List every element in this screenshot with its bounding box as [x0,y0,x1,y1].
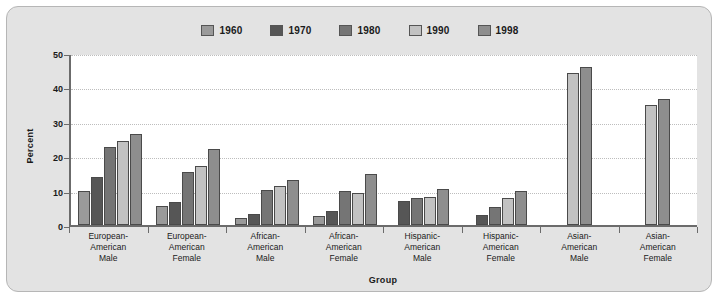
bar[interactable] [91,177,103,225]
y-axis-title: Percent [25,111,35,181]
legend-label: 1998 [496,25,519,36]
legend-item[interactable]: 1980 [339,25,380,36]
x-axis-group-label-line: African- [226,231,305,242]
legend-item[interactable]: 1990 [409,25,450,36]
x-axis-group-label-line: Male [69,253,148,264]
bar[interactable] [398,201,410,225]
y-tick-label: 50 [53,50,63,60]
y-axis: Percent 50403020100 [7,55,69,233]
x-axis-group-label-line: European- [148,231,227,242]
bar[interactable] [515,191,527,225]
bar-group [306,55,384,225]
bar-group [228,55,306,225]
bar[interactable] [182,172,194,225]
legend-label: 1990 [427,25,450,36]
x-axis-group-label-line: European- [69,231,148,242]
x-axis-group-label-line: Female [462,253,541,264]
bar[interactable] [326,211,338,225]
bar[interactable] [169,202,181,225]
x-axis-group-label-line: Hispanic- [383,231,462,242]
x-axis-group-label-line: Female [148,253,227,264]
legend-label: 1970 [288,25,311,36]
y-tick-label: 20 [53,153,63,163]
bar[interactable] [130,134,142,225]
bar[interactable] [437,189,449,225]
legend-swatch-icon [270,25,283,36]
legend-swatch-icon [478,25,491,36]
x-axis-group-label-line: Male [540,253,619,264]
bar-groups [71,55,697,225]
bar[interactable] [339,191,351,225]
x-axis-group-label-line: Hispanic- [462,231,541,242]
x-tick-mark [697,227,698,233]
legend-label: 1960 [219,25,242,36]
bar[interactable] [411,198,423,225]
x-axis-group-label-line: American [305,242,384,253]
bar-group [384,55,462,225]
x-axis-group-label: African-AmericanMale [226,231,305,273]
bar[interactable] [645,105,657,225]
bar-group [149,55,227,225]
bar[interactable] [476,215,488,225]
x-axis-group-label-line: American [148,242,227,253]
bar[interactable] [78,191,90,225]
x-axis-group-label: European-AmericanMale [69,231,148,273]
x-axis-group-label: African-AmericanFemale [305,231,384,273]
x-axis-group-label: European-AmericanFemale [148,231,227,273]
bar[interactable] [580,67,592,225]
bar[interactable] [208,149,220,225]
x-axis-group-label-line: American [69,242,148,253]
bar[interactable] [156,206,168,225]
x-axis-title: Group [69,275,697,285]
bar[interactable] [365,174,377,225]
legend-swatch-icon [409,25,422,36]
legend-item[interactable]: 1970 [270,25,311,36]
legend-label: 1980 [357,25,380,36]
bar[interactable] [235,218,247,225]
legend-swatch-icon [201,25,214,36]
x-axis-group-label-line: Male [383,253,462,264]
bar-group [462,55,540,225]
x-axis-group-label-line: Female [305,253,384,264]
y-tick-label: 0 [58,222,63,232]
x-axis-group-label-line: American [226,242,305,253]
legend-swatch-icon [339,25,352,36]
x-axis-group-label: Asian-AmericanFemale [619,231,698,273]
x-axis-group-label-line: American [462,242,541,253]
bar-group [71,55,149,225]
x-axis-group-label-line: American [540,242,619,253]
bar[interactable] [489,207,501,225]
legend-item[interactable]: 1960 [201,25,242,36]
chart-panel: 19601970198019901998 Percent 50403020100… [6,6,712,292]
x-axis-group-label-line: Male [226,253,305,264]
y-tick-label: 30 [53,119,63,129]
bar[interactable] [117,141,129,225]
bar[interactable] [104,147,116,225]
x-axis-group-label-line: American [383,242,462,253]
x-axis-group-label: Hispanic-AmericanFemale [462,231,541,273]
bar[interactable] [248,214,260,225]
x-axis-group-label-line: Asian- [540,231,619,242]
x-axis-group-label-line: Asian- [619,231,698,242]
legend-item[interactable]: 1998 [478,25,519,36]
bar[interactable] [287,180,299,225]
bar[interactable] [567,73,579,225]
bar[interactable] [502,198,514,225]
x-axis-group-label-line: American [619,242,698,253]
x-axis-group-label-line: African- [305,231,384,242]
plot-canvas [69,55,697,227]
bar[interactable] [658,99,670,225]
x-axis-labels: European-AmericanMaleEuropean-AmericanFe… [69,231,697,273]
bar[interactable] [352,193,364,225]
bar-group [619,55,697,225]
x-axis-group-label: Hispanic-AmericanMale [383,231,462,273]
bar[interactable] [274,186,286,225]
bar[interactable] [261,190,273,225]
plot-area [69,55,697,227]
bar[interactable] [195,166,207,226]
bar[interactable] [424,197,436,225]
y-tick-label: 10 [53,188,63,198]
bar[interactable] [313,216,325,225]
x-axis-group-label: Asian-AmericanMale [540,231,619,273]
chart-legend: 19601970198019901998 [7,25,713,36]
